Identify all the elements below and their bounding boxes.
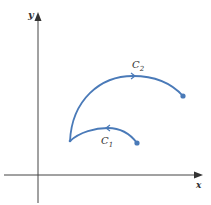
c2-label-sub: 2 — [140, 65, 144, 73]
c1-label: C1 — [101, 135, 113, 149]
diagram-canvas — [0, 0, 211, 205]
y-axis-label: y — [28, 9, 34, 20]
y-axis-arrow-icon — [35, 12, 42, 21]
line-integral-diagram: y x C2 C1 — [0, 0, 211, 205]
c1-endpoint — [134, 140, 139, 145]
x-axis-arrow-icon — [194, 172, 203, 179]
c2-endpoint — [180, 93, 185, 98]
c2-label: C2 — [132, 59, 144, 73]
common-start-point — [69, 140, 72, 143]
c2-label-main: C — [132, 59, 140, 70]
c1-label-sub: 1 — [109, 141, 113, 149]
c1-label-main: C — [101, 135, 109, 146]
x-axis-label: x — [196, 180, 201, 190]
